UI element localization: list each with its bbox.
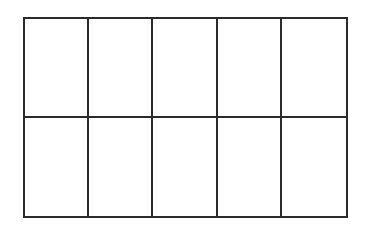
grid-diagram: [23, 17, 348, 218]
grid-cell-r1-c1: [25, 19, 89, 118]
grid-cell-r1-c2: [89, 19, 153, 118]
grid-cell-r1-c4: [218, 19, 282, 118]
grid-cell-r2-c2: [89, 118, 153, 217]
grid-cell-r2-c3: [153, 118, 217, 217]
grid-cell-r2-c1: [25, 118, 89, 217]
grid-cell-r1-c5: [282, 19, 346, 118]
grid-cell-r2-c4: [218, 118, 282, 217]
grid-cell-r1-c3: [153, 19, 217, 118]
grid-cell-r2-c5: [282, 118, 346, 217]
